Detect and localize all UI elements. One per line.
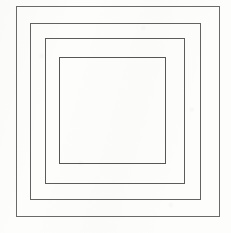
- second-rectangle: [31, 24, 201, 200]
- drawing-canvas: [0, 0, 231, 233]
- third-rectangle: [46, 39, 185, 184]
- nested-squares-figure: [0, 0, 231, 233]
- inner-rectangle: [60, 58, 166, 164]
